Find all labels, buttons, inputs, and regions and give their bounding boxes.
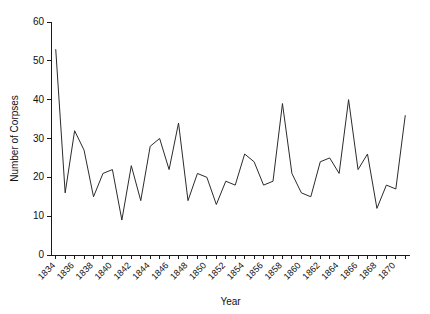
y-tick-label: 20 <box>33 171 45 182</box>
x-tick-label: 1858 <box>263 260 284 281</box>
x-tick-label: 1836 <box>55 260 76 281</box>
x-tick-label: 1834 <box>36 260 57 281</box>
x-tick-label: 1862 <box>300 260 321 281</box>
x-tick-label: 1850 <box>187 260 208 281</box>
x-tick-label: 1854 <box>225 260 246 281</box>
x-tick-label: 1842 <box>111 260 132 281</box>
x-tick-label: 1864 <box>319 260 340 281</box>
x-tick-label: 1856 <box>244 260 265 281</box>
y-tick-label: 10 <box>33 210 45 221</box>
x-tick-label: 1846 <box>149 260 170 281</box>
x-tick-label: 1860 <box>282 260 303 281</box>
y-tick-label: 40 <box>33 94 45 105</box>
x-tick-label: 1848 <box>168 260 189 281</box>
y-tick-label: 0 <box>38 249 44 260</box>
chart-container: 0102030405060 18341836183818401842184418… <box>0 0 430 314</box>
y-tick-label: 50 <box>33 55 45 66</box>
x-tick-label: 1866 <box>338 260 359 281</box>
x-tick-label: 1844 <box>130 260 151 281</box>
y-axis-ticks: 0102030405060 <box>33 16 51 260</box>
corpses-per-year-line-chart: 0102030405060 18341836183818401842184418… <box>0 0 430 314</box>
data-series-line <box>56 49 406 220</box>
x-tick-label: 1852 <box>206 260 227 281</box>
x-axis-ticks: 1834183618381840184218441846184818501852… <box>36 255 405 282</box>
y-tick-label: 30 <box>33 133 45 144</box>
y-tick-label: 60 <box>33 16 45 27</box>
x-tick-label: 1868 <box>357 260 378 281</box>
x-tick-label: 1870 <box>376 260 397 281</box>
x-axis-title: Year <box>220 296 241 307</box>
x-tick-label: 1840 <box>93 260 114 281</box>
x-tick-label: 1838 <box>74 260 95 281</box>
y-axis-title: Number of Corpses <box>9 95 20 182</box>
